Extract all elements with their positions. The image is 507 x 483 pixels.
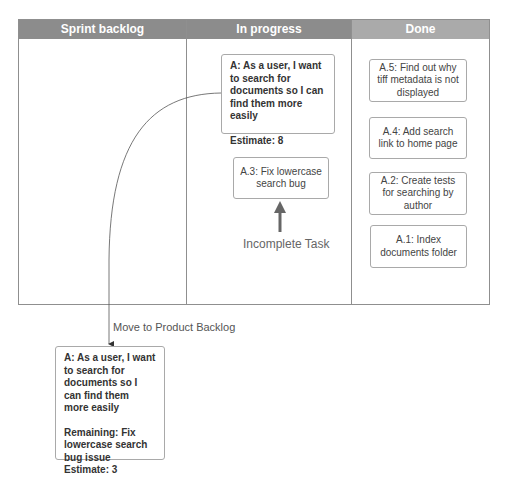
product-backlog-story-card[interactable]: A: As a user, I want to search for docum…: [55, 346, 165, 460]
move-to-backlog-connector: [109, 93, 221, 344]
move-to-backlog-label: Move to Product Backlog: [113, 321, 235, 333]
story-remaining: Remaining: Fix lowercase search bug issu…: [64, 427, 156, 465]
story-title: A: As a user, I want to search for docum…: [64, 352, 156, 415]
incomplete-task-arrow-icon: [274, 201, 286, 232]
story-estimate: Estimate: 3: [64, 464, 156, 477]
